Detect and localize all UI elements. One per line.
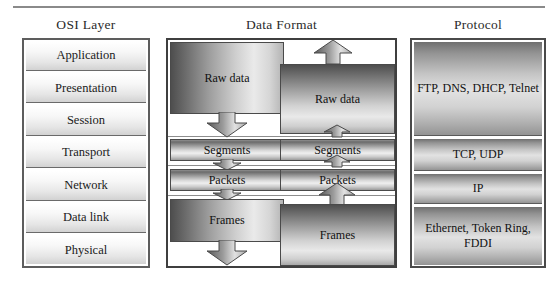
osi-model-figure: OSI Layer Data Format Protocol Applicati… (0, 0, 555, 286)
column-header-protocol: Protocol (410, 17, 546, 33)
down-arrow-icon (206, 112, 248, 138)
data-block-sending-frames: Frames (170, 199, 284, 242)
top-divider-rule (13, 6, 545, 8)
data-block-sending-segments: Segments (170, 139, 284, 161)
osi-layer-row: Session (26, 106, 146, 135)
data-format-divider (168, 165, 395, 166)
column-header-osi-layer: OSI Layer (22, 17, 150, 33)
data-block-sending-raw-data: Raw data (170, 42, 284, 114)
data-format-divider (168, 195, 395, 196)
osi-layer-stack: Application Presentation Session Transpo… (22, 38, 150, 268)
protocol-row: IP (414, 174, 542, 204)
protocol-stack: FTP, DNS, DHCP, Telnet TCP, UDP IP Ether… (410, 38, 546, 268)
data-block-receiving-frames: Frames (280, 204, 395, 266)
data-block-sending-packets: Packets (170, 169, 284, 191)
column-header-data-format: Data Format (166, 17, 397, 33)
up-arrow-icon (323, 124, 351, 138)
osi-layer-row: Network (26, 171, 146, 200)
protocol-row: TCP, UDP (414, 139, 542, 171)
osi-layer-row: Presentation (26, 74, 146, 103)
data-format-divider (168, 136, 395, 137)
up-arrow-icon (323, 154, 351, 168)
protocol-row: FTP, DNS, DHCP, Telnet (414, 42, 542, 136)
up-arrow-icon (318, 182, 356, 206)
data-format-frame: Raw data Segments Packets (166, 38, 397, 268)
up-arrow-icon (313, 39, 353, 65)
osi-layer-row: Application (26, 42, 146, 71)
osi-layer-row: Data link (26, 204, 146, 233)
osi-layer-row: Transport (26, 139, 146, 168)
down-arrow-icon (206, 240, 248, 266)
osi-layer-row: Physical (26, 236, 146, 264)
protocol-row: Ethernet, Token Ring, FDDI (414, 207, 542, 265)
